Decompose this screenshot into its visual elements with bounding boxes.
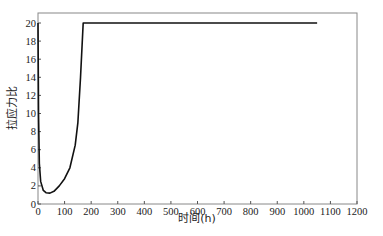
x-tick-label: 400 <box>136 206 152 217</box>
x-tick-label: 800 <box>243 206 259 217</box>
x-tick-label: 500 <box>163 206 179 217</box>
y-tick-label: 16 <box>26 54 37 65</box>
x-axis-title: 时间(h) <box>178 212 216 225</box>
x-tick-label: 900 <box>269 206 285 217</box>
plot-frame <box>38 13 357 204</box>
x-tick-label: 300 <box>110 206 126 217</box>
y-tick-label: 10 <box>26 108 37 119</box>
x-tick-label: 200 <box>83 206 99 217</box>
y-tick-label: 18 <box>26 36 37 47</box>
y-tick-label: 6 <box>31 144 36 155</box>
x-tick-label: 100 <box>57 206 73 217</box>
data-line <box>38 23 317 193</box>
y-tick-label: 4 <box>31 162 37 173</box>
y-tick-label: 20 <box>26 18 37 29</box>
y-axis-title: 拉应力比 <box>5 86 19 130</box>
x-tick-label: 1200 <box>347 206 368 217</box>
y-tick-label: 12 <box>26 90 37 101</box>
x-tick-label: 1100 <box>320 206 341 217</box>
x-tick-label: 1000 <box>293 206 314 217</box>
y-tick-label: 14 <box>26 72 37 83</box>
y-tick-label: 2 <box>31 180 36 191</box>
y-tick-label: 8 <box>31 126 36 137</box>
line-chart: 02468101214161820 0100200300400500600700… <box>0 0 383 236</box>
x-tick-label: 700 <box>216 206 232 217</box>
x-tick-label: 0 <box>35 206 40 217</box>
